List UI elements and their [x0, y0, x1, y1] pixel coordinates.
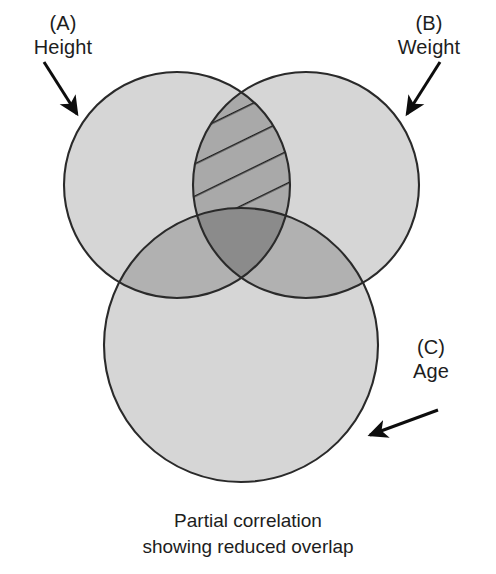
- label-set-b-name: Weight: [370, 36, 488, 60]
- label-set-c-tag: (C): [378, 336, 484, 360]
- label-set-c: (C) Age: [378, 336, 484, 383]
- label-set-b: (B) Weight: [370, 12, 488, 59]
- label-set-a-tag: (A): [8, 12, 118, 36]
- label-set-a-name: Height: [8, 36, 118, 60]
- arrow-to-height-icon: [44, 62, 77, 114]
- figure-caption-line-2: showing reduced overlap: [0, 534, 496, 560]
- arrow-to-age-icon: [370, 410, 438, 435]
- venn-diagram-canvas: [0, 0, 496, 574]
- figure-caption: Partial correlation showing reduced over…: [0, 508, 496, 560]
- label-set-a: (A) Height: [8, 12, 118, 59]
- label-set-c-name: Age: [378, 360, 484, 384]
- label-set-b-tag: (B): [370, 12, 488, 36]
- venn-diagram-figure: (A) Height (B) Weight (C) Age Partial co…: [0, 0, 496, 574]
- figure-caption-line-1: Partial correlation: [0, 508, 496, 534]
- arrow-to-weight-icon: [407, 62, 440, 114]
